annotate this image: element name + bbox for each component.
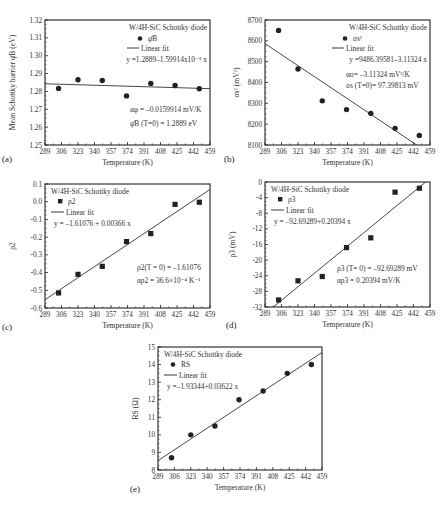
- fit-equation: y =–1.93344+0.03622 x: [167, 382, 238, 391]
- y-tick-label: -20: [252, 257, 262, 265]
- x-tick-label: 391: [139, 148, 150, 156]
- data-point: [236, 397, 241, 402]
- panel-label: (b): [224, 154, 235, 164]
- y-tick-label: 11: [148, 414, 155, 422]
- x-tick-label: 459: [205, 311, 216, 319]
- data-point: [124, 239, 129, 244]
- y-tick-label: -12: [252, 225, 262, 233]
- data-point: [148, 81, 153, 86]
- x-tick-label: 374: [122, 148, 133, 156]
- x-axis: 289306323340357374391408425442459Tempera…: [153, 467, 328, 492]
- data-point: [197, 200, 202, 205]
- y-tick-label: 1.31: [29, 34, 42, 42]
- legend-series-label: φ̄B: [148, 34, 157, 43]
- legend: W/4H-SiC Schottky diodeρ3Linear fity = –…: [271, 185, 351, 226]
- chart-panel-e: 289306323340357374391408425442459Tempera…: [130, 344, 328, 495]
- y-tick-label: -8: [256, 210, 262, 218]
- data-point: [100, 264, 105, 269]
- y-tick-label: 15: [148, 344, 156, 352]
- y-axis-title: σs² (mV²): [232, 67, 241, 97]
- x-tick-label: 408: [375, 310, 386, 318]
- legend-marker-icon: [58, 199, 62, 203]
- x-tick-label: 374: [122, 311, 133, 319]
- y-tick-label: 12: [148, 396, 156, 404]
- fit-equation: y =9486.39581–3.11324 x: [349, 55, 427, 64]
- data-point: [320, 98, 325, 103]
- data-point: [295, 278, 300, 283]
- figure-canvas: 289306323340357374391408425442459Tempera…: [0, 0, 448, 508]
- data-point: [124, 93, 129, 98]
- data-point: [188, 432, 193, 437]
- legend-series-label: σs²: [353, 34, 363, 43]
- y-tick-label: -28: [252, 288, 262, 296]
- x-tick-label: 425: [392, 148, 403, 156]
- data-point: [344, 245, 349, 250]
- legend: W/4H-SiC Schottky diodeσs²Linear fity =9…: [332, 23, 428, 64]
- annotation-text: ασ= –3.11324 mV²/K: [346, 70, 411, 79]
- x-tick-label: 306: [56, 148, 67, 156]
- x-tick-label: 340: [309, 310, 320, 318]
- x-tick-label: 408: [375, 148, 386, 156]
- fit-equation: y = –92.69289+0.20394 x: [274, 217, 351, 226]
- x-tick-label: 374: [342, 310, 353, 318]
- fit-equation: y =1.2889–1.59914x10⁻⁵ x: [126, 55, 207, 64]
- data-point: [392, 190, 397, 195]
- y-axis: -32-28-24-20-16-12-8-40ρ3 (mV): [228, 179, 268, 312]
- legend-series-label: ρ2: [68, 197, 76, 206]
- y-axis-title: ρ2: [8, 242, 17, 250]
- legend-series-label: RS: [181, 360, 190, 369]
- legend-fit-label: Linear fit: [346, 44, 375, 53]
- x-tick-label: 391: [139, 311, 150, 319]
- chart-panel-b: 289306323340357374391408425442459Tempera…: [224, 17, 436, 168]
- y-tick-label: -0.1: [31, 216, 43, 224]
- legend-marker-icon: [171, 362, 176, 367]
- data-point: [212, 423, 217, 428]
- x-tick-label: 425: [284, 473, 295, 481]
- y-tick-label: 1.28: [29, 88, 42, 96]
- y-tick-label: -16: [252, 241, 262, 249]
- y-tick-label: 14: [148, 361, 156, 369]
- data-point: [75, 272, 80, 277]
- legend-marker-icon: [138, 36, 143, 41]
- data-point: [392, 126, 397, 131]
- data-point: [285, 371, 290, 376]
- y-tick-label: 8100: [248, 142, 263, 150]
- y-axis-title: RS (Ω): [131, 397, 140, 419]
- x-tick-label: 442: [188, 148, 199, 156]
- data-point: [75, 77, 80, 82]
- x-tick-label: 323: [293, 148, 304, 156]
- y-tick-label: -32: [252, 304, 262, 312]
- x-axis-title: Temperature (K): [102, 321, 153, 330]
- x-tick-label: 306: [56, 311, 67, 319]
- x-tick-label: 442: [408, 310, 419, 318]
- x-tick-label: 357: [106, 148, 117, 156]
- x-tick-label: 323: [293, 310, 304, 318]
- data-point: [309, 362, 314, 367]
- data-point: [56, 290, 61, 295]
- x-tick-label: 323: [73, 148, 84, 156]
- data-point: [260, 388, 265, 393]
- x-tick-label: 391: [359, 148, 370, 156]
- x-tick-label: 357: [326, 148, 337, 156]
- legend-fit-label: Linear fit: [179, 371, 208, 380]
- legend: W/4H-SiC Schottky diodeRSLinear fity =–1…: [164, 350, 243, 391]
- x-tick-label: 374: [235, 473, 246, 481]
- data-point: [368, 111, 373, 116]
- y-tick-label: -0.6: [31, 305, 43, 313]
- y-tick-label: -4: [256, 194, 262, 202]
- legend-fit-label: Linear fit: [286, 206, 315, 215]
- y-tick-label: 0.0: [33, 198, 42, 206]
- panel-label: (c): [2, 322, 12, 332]
- y-tick-label: -24: [252, 272, 262, 280]
- y-tick-label: -0.4: [31, 269, 43, 277]
- x-tick-label: 459: [425, 310, 436, 318]
- data-point: [417, 133, 422, 138]
- legend-fit-label: Linear fit: [141, 44, 170, 53]
- y-tick-label: 8200: [248, 121, 263, 129]
- x-tick-label: 306: [169, 473, 180, 481]
- y-tick-label: 1.30: [29, 52, 42, 60]
- x-tick-label: 340: [202, 473, 213, 481]
- panel-label: (e): [130, 484, 140, 494]
- y-tick-label: 1.25: [29, 142, 42, 150]
- annotation-text: αφ = –0.0159914 mV/K: [130, 105, 202, 114]
